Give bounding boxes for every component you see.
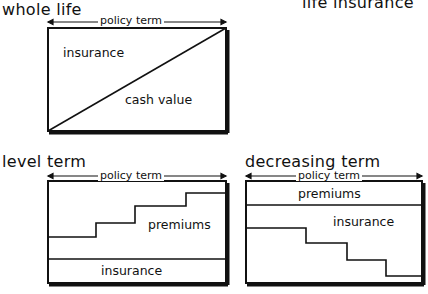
cash-value-region-label: cash value	[125, 92, 192, 107]
whole-life-box	[48, 28, 228, 133]
policy-term-label: policy term	[98, 15, 164, 26]
policy-term-label: policy term	[98, 170, 164, 181]
header-title: life insurance	[302, 0, 414, 12]
insurance-region-label: insurance	[101, 263, 162, 278]
level-term-title: level term	[2, 152, 86, 171]
premiums-region-label: premiums	[148, 217, 211, 232]
policy-term-label: policy term	[296, 170, 362, 181]
premiums-region-label: premiums	[298, 186, 361, 201]
whole-life-title: whole life	[2, 0, 82, 19]
insurance-region-label: insurance	[333, 214, 394, 229]
insurance-region-label: insurance	[63, 45, 124, 60]
